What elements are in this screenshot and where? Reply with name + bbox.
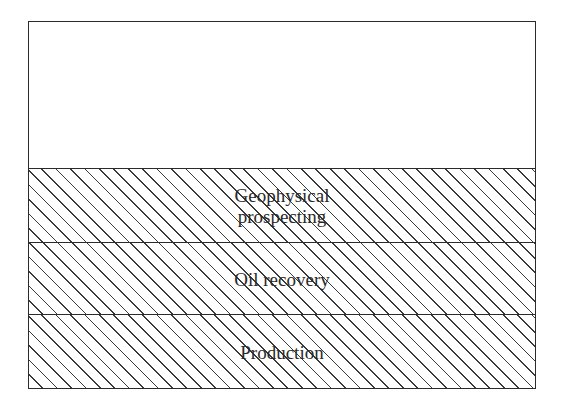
layer-production: Production <box>29 314 535 388</box>
layer-label: Production <box>29 341 535 362</box>
layer-oil-recovery: Oil recovery <box>29 242 535 314</box>
label-line-1: Geophysical <box>235 185 330 206</box>
label-line-2: prospecting <box>238 206 327 227</box>
layer-label: Oil recovery <box>29 268 535 289</box>
empty-top-layer <box>29 22 535 168</box>
layer-geophysical-prospecting: Geophysical prospecting <box>29 168 535 242</box>
layer-stack-diagram: Geophysical prospecting Oil recovery Pro… <box>28 21 536 389</box>
layer-label: Geophysical prospecting <box>29 185 535 227</box>
